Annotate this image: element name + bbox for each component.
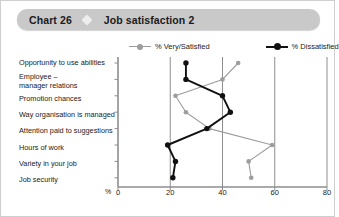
legend-item-dissatisfied: % Dissatisfied [266, 42, 339, 51]
category-axis [115, 57, 119, 187]
chart-header-banner: Chart 26 Job satisfaction 2 [17, 9, 320, 30]
legend-marker-icon [266, 42, 288, 51]
legend-label: % Dissatisfied [292, 42, 339, 51]
x-tick-label: 0 [116, 188, 120, 197]
x-tick-label: 20 [166, 188, 174, 197]
chart-canvas [1, 57, 336, 209]
chart-number-label: Chart 26 [29, 14, 72, 26]
axis-unit-label: % [105, 188, 111, 195]
x-tick-label: 40 [218, 188, 226, 197]
chart-plot-area: Opportunity to use abilities Employee – … [1, 57, 336, 209]
x-tick-label: 60 [271, 188, 279, 197]
page-title: Job satisfaction 2 [104, 14, 195, 26]
legend-label: % Very/Satisfied [155, 42, 210, 51]
grid-lines [118, 57, 327, 187]
chart-legend: % Very/Satisfied % Dissatisfied [129, 42, 339, 51]
data-series-layer [165, 60, 275, 180]
x-tick-label: 80 [323, 188, 331, 197]
diamond-icon [83, 15, 92, 24]
legend-item-very-satisfied: % Very/Satisfied [129, 42, 210, 51]
legend-marker-icon [129, 42, 151, 51]
